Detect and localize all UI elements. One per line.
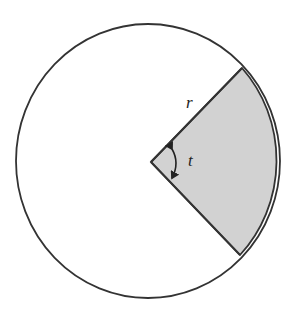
radius-label: r — [186, 93, 193, 112]
diagram-canvas: r t — [0, 0, 296, 314]
sector-diagram: r t — [0, 0, 296, 314]
